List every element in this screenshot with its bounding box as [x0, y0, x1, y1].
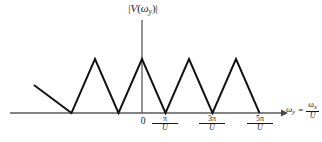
y-axis-label-bar-right: |: [156, 2, 158, 14]
x-axis-label-fraction-numerator: ωx: [306, 101, 319, 111]
x-axis-label-fraction-subscript: x: [314, 103, 317, 110]
tick-label-3pi-over-u-denominator: U: [199, 123, 225, 132]
spectrum-waveform: [34, 59, 260, 113]
tick-label-origin: 0: [138, 117, 148, 127]
x-axis-label-omega-y: ωy: [286, 105, 295, 116]
tick-label-3pi-over-u: 3π U: [199, 115, 225, 133]
x-axis-label-equals: =: [298, 106, 303, 115]
x-axis-label-fraction-denominator: U: [306, 111, 319, 120]
tick-label-3pi-over-u-numerator: 3π: [199, 115, 225, 123]
y-axis-label: |V(ωy)|: [113, 3, 173, 16]
triangle-train: [34, 59, 260, 113]
x-axis-label-omega-subscript: y: [292, 108, 295, 115]
x-axis-label-fraction: ωx U: [306, 101, 319, 120]
spectrum-figure: |V(ωy)| 0 π U 3π U 5π U ωy = ωx U: [0, 0, 322, 142]
tick-label-5pi-over-u-numerator: 5π: [247, 115, 273, 123]
tick-label-pi-over-u-denominator: U: [152, 123, 178, 132]
tick-label-5pi-over-u: 5π U: [247, 115, 273, 133]
tick-label-5pi-over-u-denominator: U: [247, 123, 273, 132]
x-axis-label: ωy = ωx U: [286, 101, 319, 120]
tick-label-pi-over-u: π U: [152, 115, 178, 133]
y-axis-label-omega: ω: [141, 2, 149, 14]
tick-label-pi-over-u-numerator: π: [152, 115, 178, 123]
